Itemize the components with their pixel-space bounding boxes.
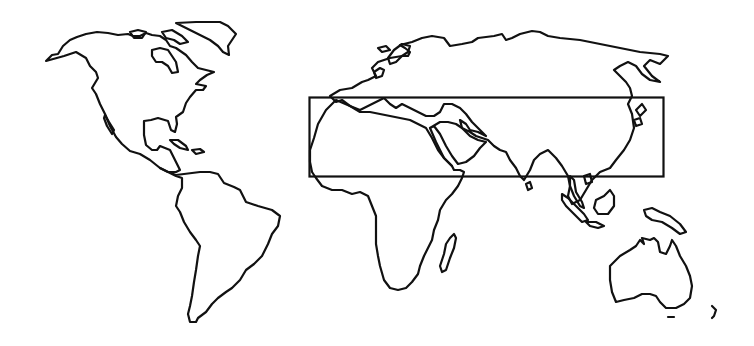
hudson-bay — [152, 48, 178, 73]
arctic-islands — [130, 30, 188, 44]
new-guinea — [644, 208, 686, 234]
new-zealand — [712, 306, 716, 318]
japan — [634, 104, 646, 126]
cuba — [170, 140, 188, 150]
continent-south-america — [160, 168, 280, 322]
sri-lanka — [526, 182, 532, 190]
hispaniola — [192, 149, 204, 154]
java — [586, 222, 604, 228]
continent-eurasia — [330, 31, 668, 204]
madagascar — [440, 234, 456, 272]
continent-north-america — [46, 32, 214, 172]
world-map — [0, 0, 754, 346]
scandinavia — [388, 44, 410, 64]
australia — [610, 238, 692, 308]
borneo — [594, 190, 614, 214]
iceland — [378, 46, 390, 52]
